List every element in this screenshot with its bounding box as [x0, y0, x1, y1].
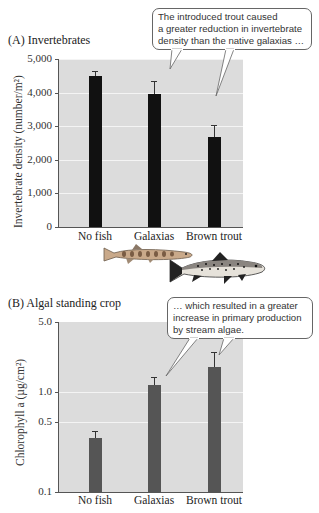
panel-b-callout-pointers [0, 0, 319, 513]
